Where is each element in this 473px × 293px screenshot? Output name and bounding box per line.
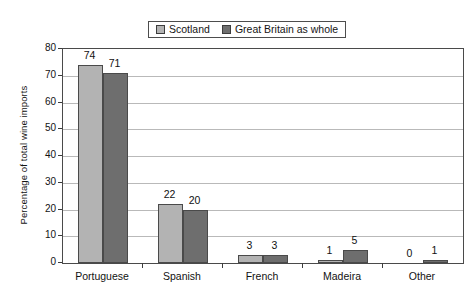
- bar: [263, 255, 288, 263]
- y-tick-label: 20: [36, 204, 56, 214]
- bar: [103, 73, 128, 263]
- chart-legend: Scotland Great Britain as whole: [148, 21, 346, 38]
- bar-value-label: 5: [342, 235, 367, 246]
- bar-value-label: 3: [262, 240, 287, 251]
- x-tick-mark: [222, 263, 223, 268]
- x-tick-mark: [302, 263, 303, 268]
- y-tick-label: 50: [36, 123, 56, 133]
- y-tick-label: 60: [36, 97, 56, 107]
- bar: [78, 65, 103, 263]
- x-category-label: Spanish: [142, 270, 222, 282]
- legend-swatch-scotland: [156, 25, 165, 34]
- y-tick-label: 40: [36, 150, 56, 160]
- bar-value-label: 71: [102, 58, 127, 69]
- bar-value-label: 74: [77, 50, 102, 61]
- bar-chart: Scotland Great Britain as whole Percenta…: [0, 0, 473, 293]
- bar: [318, 260, 343, 263]
- bar: [183, 210, 208, 264]
- legend-label-scotland: Scotland: [169, 24, 210, 35]
- y-tick-label: 0: [36, 257, 56, 267]
- plot-area: [62, 48, 464, 264]
- bar: [158, 204, 183, 263]
- x-category-label: French: [222, 270, 302, 282]
- x-category-label: Madeira: [302, 270, 382, 282]
- bar-value-label: 1: [317, 245, 342, 256]
- x-category-label: Other: [382, 270, 462, 282]
- x-tick-mark: [142, 263, 143, 268]
- bar-value-label: 3: [237, 240, 262, 251]
- legend-entry-great-britain: Great Britain as whole: [222, 24, 338, 35]
- bar: [238, 255, 263, 263]
- legend-swatch-great-britain: [222, 25, 231, 34]
- bar-value-label: 20: [182, 195, 207, 206]
- y-tick-label: 70: [36, 70, 56, 80]
- bar-value-label: 0: [397, 248, 422, 259]
- legend-label-great-britain: Great Britain as whole: [235, 24, 338, 35]
- bar: [423, 260, 448, 263]
- bar-value-label: 1: [422, 245, 447, 256]
- bar-value-label: 22: [157, 189, 182, 200]
- legend-entry-scotland: Scotland: [156, 24, 210, 35]
- x-tick-mark: [382, 263, 383, 268]
- y-tick-label: 30: [36, 177, 56, 187]
- y-tick-label: 10: [36, 230, 56, 240]
- y-axis-title: Percentage of total wine imports: [18, 45, 32, 265]
- x-category-label: Portuguese: [62, 270, 142, 282]
- bar: [343, 250, 368, 263]
- y-tick-label: 80: [36, 43, 56, 53]
